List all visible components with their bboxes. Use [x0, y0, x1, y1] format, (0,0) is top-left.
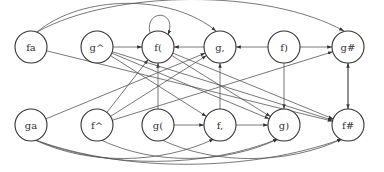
node-label: f^: [91, 120, 103, 131]
edge-ga-to-fsharp: [35, 139, 342, 164]
node-label: f,: [217, 120, 224, 131]
graph-svg: fag^f(g,f)g#gaf^g(f,g)f#: [0, 0, 384, 172]
node-fcomma: f,: [204, 109, 236, 141]
node-flparen: f(: [142, 31, 174, 63]
node-gcaret: g^: [81, 31, 113, 63]
edge-flparen-to-fsharp: [173, 53, 333, 119]
node-label: f(: [154, 42, 162, 53]
edge-ga-to-gcomma: [46, 53, 205, 119]
node-label: g): [279, 120, 289, 131]
edge-flparen-to-grparen: [172, 55, 271, 116]
edge-fa-to-gcomma: [37, 3, 216, 32]
node-fsharp: f#: [332, 109, 364, 141]
graph-canvas: fag^f(g,f)g#gaf^g(f,g)f#: [0, 0, 384, 172]
edge-fa-to-gsharp: [37, 0, 344, 32]
node-label: g,: [215, 42, 225, 53]
node-fa: fa: [15, 31, 47, 63]
node-label: g(: [153, 120, 163, 131]
edge-gcaret-to-grparen: [112, 53, 269, 119]
node-label: g#: [341, 42, 356, 53]
node-label: f#: [342, 120, 354, 131]
node-fcaret: f^: [81, 109, 113, 141]
node-label: f): [280, 42, 288, 53]
node-gcomma: g,: [204, 31, 236, 63]
node-label: g^: [90, 42, 105, 53]
node-grparen: g): [268, 109, 300, 141]
node-glparen: g(: [142, 109, 174, 141]
node-label: fa: [26, 42, 36, 53]
edges-layer: [35, 0, 348, 164]
node-gsharp: g#: [332, 31, 364, 63]
node-frparen: f): [268, 31, 300, 63]
node-ga: ga: [15, 109, 47, 141]
node-label: ga: [25, 120, 37, 131]
